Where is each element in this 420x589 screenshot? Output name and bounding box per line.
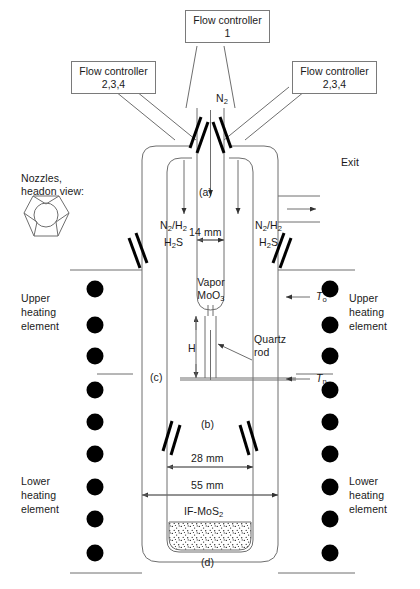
heating-element-dot — [87, 414, 104, 431]
break-mark-mid-right-b — [240, 425, 249, 455]
heating-element-dot — [87, 511, 104, 528]
heating-element-dot — [87, 446, 104, 463]
flow-controller-left-box[interactable]: Flow controller 2,3,4 — [71, 61, 156, 94]
flow-controller-right-box[interactable]: Flow controller 2,3,4 — [292, 61, 377, 94]
label-n2-carrier: N2 — [216, 92, 228, 108]
heating-element-dot — [322, 545, 339, 562]
heating-element-dot — [87, 545, 104, 562]
feed-line-top-left — [186, 46, 197, 108]
heating-element-dot — [87, 348, 104, 365]
flow-controller-left-line2: 2,3,4 — [76, 78, 151, 91]
nozzle-inset-edge-b — [59, 196, 69, 213]
middle-tube-shoulder-left — [167, 158, 192, 172]
heating-element-dot — [322, 414, 339, 431]
heating-element-dot — [322, 511, 339, 528]
flow-controller-right-line2: 2,3,4 — [297, 78, 372, 91]
heating-element-dot — [322, 348, 339, 365]
label-lower-heating-element-right: Lower heating element — [349, 474, 387, 516]
label-temp-bottom: Tn — [316, 372, 327, 388]
flow-controller-right-line1: Flow controller — [297, 65, 372, 78]
label-gas-left-mix: N2/H2 — [160, 219, 187, 235]
zone-marker-c: (c) — [150, 371, 163, 384]
zone-marker-a: (a) — [199, 186, 212, 199]
leader-quartz-rod — [218, 344, 252, 360]
nozzle-inset-edge-a — [24, 196, 33, 213]
dim-label-28mm: 28 mm — [191, 452, 224, 465]
nozzle-inset-caption: Nozzles, headon view: — [21, 172, 84, 198]
feed-line-left-b — [131, 87, 196, 140]
dim-label-55mm: 55 mm — [191, 479, 224, 492]
heating-element-dot — [322, 479, 339, 496]
figure-canvas: Flow controller 1 Flow controller 2,3,4 … — [0, 0, 420, 589]
heating-element-dot — [322, 446, 339, 463]
flow-controller-1-line1: Flow controller — [190, 14, 265, 27]
label-upper-heating-element-right: Upper heating element — [349, 291, 387, 333]
zone-marker-b: (b) — [201, 418, 214, 431]
label-if-mos2: IF-MoS2 — [184, 505, 223, 521]
heating-element-dot — [87, 281, 104, 298]
flow-controller-1-box[interactable]: Flow controller 1 — [185, 10, 270, 43]
middle-tube-shoulder-right — [229, 158, 253, 172]
label-upper-heating-element-left: Upper heating element — [21, 291, 59, 333]
dim-label-14mm: 14 mm — [189, 226, 222, 239]
heating-element-dot — [322, 317, 339, 334]
dim-label-h: H — [188, 342, 196, 355]
feed-line-left-a — [110, 87, 175, 140]
label-gas-right-h2s: H2S — [259, 236, 278, 252]
break-mark-mid-left-b — [171, 425, 180, 455]
label-gas-left-h2s: H2S — [164, 236, 183, 252]
feed-line-right-a — [245, 87, 310, 140]
feed-line-right-b — [224, 87, 289, 140]
heating-element-dot — [87, 479, 104, 496]
label-vapor-moo3: Vapor MoO3 — [190, 276, 232, 305]
label-gas-right-mix: N2/H2 — [255, 219, 282, 235]
label-exit: Exit — [341, 156, 359, 169]
powder-bed — [169, 522, 251, 550]
label-lower-heating-element-left: Lower heating element — [21, 474, 59, 516]
flow-controller-1-line2: 1 — [190, 27, 265, 40]
nozzle-inset-hub — [34, 203, 58, 227]
label-temp-top: To — [316, 290, 327, 306]
zone-marker-d: (d) — [201, 556, 214, 569]
label-quartz-rod: Quartz rod — [254, 333, 286, 359]
heating-element-dot — [87, 382, 104, 399]
heating-element-dot — [87, 317, 104, 334]
flow-controller-left-line1: Flow controller — [76, 65, 151, 78]
